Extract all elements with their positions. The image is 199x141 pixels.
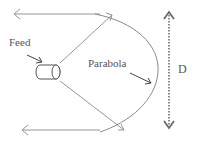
parabola-pointer-arrow — [130, 73, 151, 83]
diameter-label: D — [178, 62, 187, 77]
parabolic-antenna-diagram: Feed Parabola D — [0, 0, 199, 141]
ray-lower — [60, 81, 124, 130]
feed-horn-icon — [36, 65, 60, 79]
feed-label: Feed — [9, 36, 30, 48]
parabola-reflector — [95, 14, 158, 132]
diagram-graphics — [0, 0, 199, 141]
ray-lower-arrowhead — [118, 124, 124, 130]
parabola-label: Parabola — [88, 57, 126, 69]
ray-upper — [60, 15, 112, 63]
